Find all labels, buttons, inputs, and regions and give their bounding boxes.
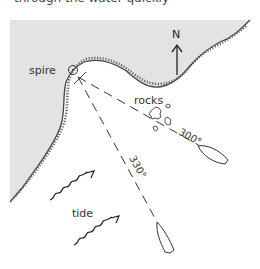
tide-label: tide (72, 207, 93, 220)
rocks-label: rocks (134, 94, 163, 107)
tide-arrow-icon-upper (50, 171, 94, 200)
bearing-label-330: 330° (127, 154, 148, 180)
tide-arrow-icon-lower (74, 216, 119, 245)
boat-icon-330 (157, 222, 174, 253)
spire-label: spire (29, 64, 56, 77)
north-label: N (172, 28, 180, 41)
bearing-label-300: 300° (177, 126, 203, 147)
land-mass (10, 20, 250, 202)
chart-map: N spire 300° 330° rocks tide (0, 0, 260, 269)
rocks-icon (149, 104, 171, 131)
boat-icon-300 (198, 146, 228, 164)
